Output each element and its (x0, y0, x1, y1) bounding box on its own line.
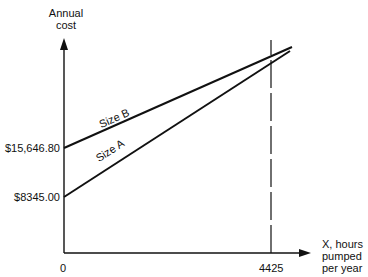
origin-label: 0 (60, 262, 66, 274)
y-axis-label-line2: cost (46, 19, 86, 31)
chart-canvas (0, 0, 368, 277)
x-axis-label-line3: per year (322, 262, 363, 274)
x-axis-label: X, hours pumped per year (322, 238, 363, 274)
y-tick-high: $15,646.80 (5, 142, 60, 154)
size-b-line (64, 47, 292, 148)
y-axis-arrow-icon (60, 38, 68, 50)
x-axis-label-line2: pumped (322, 250, 363, 262)
y-tick-low: $8345.00 (14, 191, 60, 203)
size-a-line (64, 51, 290, 197)
x-tick-4425: 4425 (259, 262, 283, 274)
x-axis-arrow-icon (299, 249, 311, 257)
x-axis-label-line1: X, hours (322, 238, 363, 250)
y-axis-label: Annual cost (46, 7, 86, 31)
y-axis-label-line1: Annual (46, 7, 86, 19)
